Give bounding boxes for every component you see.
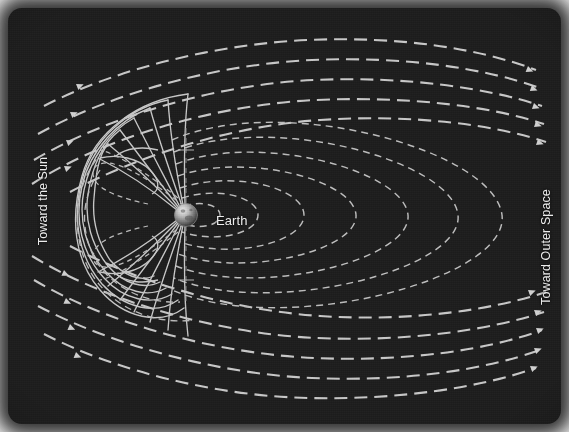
field-line-canvas <box>8 8 561 424</box>
earth-globe <box>175 204 198 227</box>
label-earth: Earth <box>216 213 248 228</box>
diagram-plate: Toward the Sun Toward Outer Space Earth <box>8 8 561 424</box>
outflow-arrowheads-upper <box>526 66 545 147</box>
label-toward-outer-space: Toward Outer Space <box>539 177 553 317</box>
neutral-point-north <box>100 148 158 194</box>
magnetosheath-boundary <box>77 150 194 321</box>
solar-wind-lower <box>32 246 546 398</box>
magnetosphere-figure: Toward the Sun Toward Outer Space Earth <box>0 0 569 432</box>
dayside-cusp-dashed <box>93 150 184 280</box>
label-toward-the-sun: Toward the Sun <box>36 136 50 266</box>
solar-wind-upper <box>32 39 546 192</box>
